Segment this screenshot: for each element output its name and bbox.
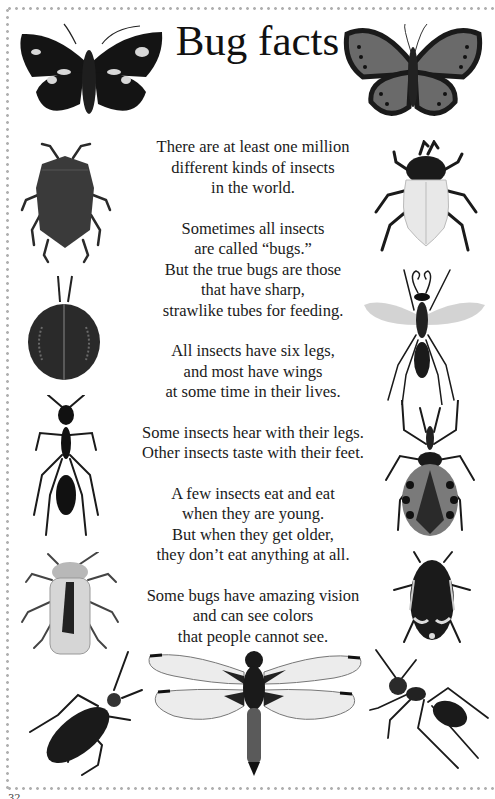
- walking-ant-illustration: [368, 648, 495, 773]
- facts-text: There are at least one milliondifferent …: [128, 137, 378, 667]
- page-border-top: [6, 7, 495, 10]
- assassin-bug-illustration: [380, 400, 480, 540]
- fact-line: when they are young.: [128, 504, 378, 525]
- page-number: 32: [8, 793, 21, 799]
- fact-paragraph: All insects have six legs,and most have …: [128, 341, 378, 403]
- fact-paragraph: Sometimes all insectsare called “bugs.”B…: [128, 219, 378, 322]
- fact-line: in the world.: [128, 178, 378, 199]
- fact-line: and most have wings: [128, 362, 378, 383]
- fact-line: Sometimes all insects: [128, 219, 378, 240]
- shield-bug-illustration: [18, 140, 113, 265]
- fact-line: are called “bugs.”: [128, 239, 378, 260]
- page-title: Bug facts: [170, 12, 345, 70]
- page-border-left: [6, 7, 9, 789]
- pale-beetle-illustration: [18, 552, 123, 657]
- butterfly-illustration: [343, 22, 483, 122]
- fact-paragraph: A few insects eat and eatwhen they are y…: [128, 484, 378, 566]
- moth-illustration: [14, 22, 164, 124]
- spotted-beetle-illustration: [392, 550, 472, 650]
- fact-line: A few insects eat and eat: [128, 484, 378, 505]
- fact-line: Some insects hear with their legs.: [128, 423, 378, 444]
- fact-line: Some bugs have amazing vision: [128, 586, 378, 607]
- page-border-bottom: [6, 787, 495, 790]
- fact-line: and can see colors: [128, 606, 378, 627]
- fact-line: that have sharp,: [128, 280, 378, 301]
- fact-line: But when they get older,: [128, 525, 378, 546]
- fact-paragraph: Some bugs have amazing visionand can see…: [128, 586, 378, 648]
- fact-line: different kinds of insects: [128, 158, 378, 179]
- fact-line: strawlike tubes for feeding.: [128, 301, 378, 322]
- white-beetle-illustration: [368, 140, 480, 255]
- fact-line: But the true bugs are those: [128, 260, 378, 281]
- fact-line: There are at least one million: [128, 137, 378, 158]
- fact-line: that people cannot see.: [128, 627, 378, 648]
- dragonfly-illustration: [144, 650, 366, 778]
- fact-line: at some time in their lives.: [128, 382, 378, 403]
- wasp-illustration: [362, 265, 487, 405]
- fact-line: they don’t eat anything at all.: [128, 545, 378, 566]
- fact-line: All insects have six legs,: [128, 341, 378, 362]
- fact-line: Other insects taste with their feet.: [128, 443, 378, 464]
- tortoise-beetle-illustration: [24, 272, 104, 382]
- fact-paragraph: Some insects hear with their legs.Other …: [128, 423, 378, 464]
- soldier-bug-illustration: [18, 650, 143, 778]
- ant-illustration: [28, 395, 103, 540]
- fact-paragraph: There are at least one milliondifferent …: [128, 137, 378, 199]
